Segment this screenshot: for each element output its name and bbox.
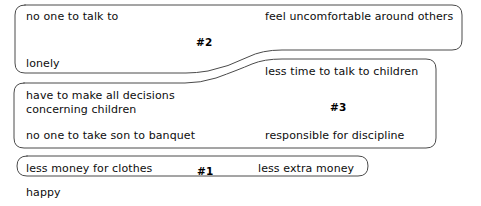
note-no-one-to-talk-to[interactable]: no one to talk to — [26, 10, 118, 24]
note-feel-uncomfortable-around-others[interactable]: feel uncomfortable around others — [265, 10, 453, 24]
note-less-time-to-talk-to-children[interactable]: less time to talk to children — [265, 65, 418, 79]
group-number-3: #3 — [330, 101, 347, 113]
note-no-one-to-take-son-to-banquet[interactable]: no one to take son to banquet — [26, 129, 195, 143]
note-have-to-make-all-decisions[interactable]: have to make all decisions — [26, 89, 175, 103]
group-number-2: #2 — [196, 36, 213, 48]
note-concerning-children[interactable]: concerning children — [26, 103, 136, 117]
note-lonely[interactable]: lonely — [26, 57, 60, 71]
note-happy[interactable]: happy — [26, 186, 61, 200]
group-number-1: #1 — [197, 165, 214, 177]
note-less-extra-money[interactable]: less extra money — [258, 162, 354, 176]
note-less-money-for-clothes[interactable]: less money for clothes — [26, 162, 152, 176]
diagram-canvas: no one to talk to feel uncomfortable aro… — [0, 0, 481, 206]
note-responsible-for-discipline[interactable]: responsible for discipline — [265, 129, 404, 143]
